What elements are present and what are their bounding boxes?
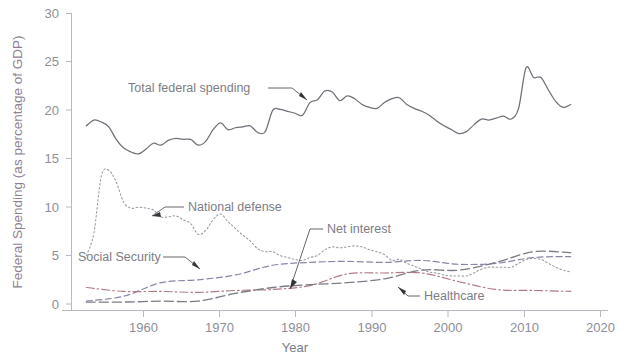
- x-tick-label-2000: 2000: [434, 320, 463, 335]
- annotation-label-net-interest: Net interest: [327, 222, 391, 236]
- annotation-label-social-security: Social Security: [78, 250, 161, 264]
- x-tick-label-1970: 1970: [205, 320, 234, 335]
- x-tick-label-1980: 1980: [281, 320, 310, 335]
- chart-svg: 30 25 20 15 10 5 0 1960 1970 1980 1990 2…: [0, 0, 627, 360]
- series-line-net-interest: [86, 272, 570, 292]
- annotation-label-healthcare: Healthcare: [424, 289, 484, 303]
- series-layer: [86, 67, 570, 303]
- annotation-national-defense: National defense: [152, 200, 282, 217]
- y-tick-label-20: 20: [45, 103, 59, 118]
- x-tick-label-1990: 1990: [358, 320, 387, 335]
- x-axis-ticks: [144, 311, 601, 318]
- y-tick-label-25: 25: [45, 54, 59, 69]
- annotation-label-total-federal-spending: Total federal spending: [128, 81, 250, 95]
- y-axis-ticks: [66, 14, 72, 305]
- annotation-total-federal-spending: Total federal spending: [128, 81, 307, 100]
- y-tick-label-0: 0: [52, 297, 59, 312]
- y-axis-title: Federal Spending (as percentage of GDP): [10, 36, 25, 289]
- annotation-healthcare: Healthcare: [398, 287, 484, 303]
- x-axis-title: Year: [282, 340, 309, 355]
- annotation-net-interest: Net interest: [290, 222, 391, 289]
- annotation-label-national-defense: National defense: [188, 200, 282, 214]
- x-tick-label-2010: 2010: [510, 320, 539, 335]
- chart-figure: 30 25 20 15 10 5 0 1960 1970 1980 1990 2…: [0, 0, 627, 360]
- y-tick-label-30: 30: [45, 6, 59, 21]
- y-tick-label-15: 15: [45, 151, 59, 166]
- series-line-total-federal-spending: [86, 67, 570, 154]
- y-tick-label-5: 5: [52, 248, 59, 263]
- y-tick-label-10: 10: [45, 200, 59, 215]
- annotation-social-security: Social Security: [78, 250, 200, 269]
- x-tick-label-1960: 1960: [129, 320, 158, 335]
- x-tick-label-2020: 2020: [586, 320, 615, 335]
